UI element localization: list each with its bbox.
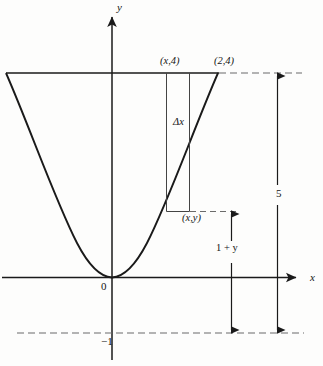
point-label-xy: (x,y) xyxy=(182,213,201,224)
delta-x-label: Δx xyxy=(171,117,186,128)
origin-label: 0 xyxy=(101,281,107,292)
negative-one-label: −1 xyxy=(101,336,113,347)
one-plus-y-label: 1 + y xyxy=(214,243,240,254)
point-label-24: (2,4) xyxy=(214,56,234,67)
axes-group xyxy=(2,17,296,360)
x-axis-label: x xyxy=(310,272,315,283)
point-label-x4: (x,4) xyxy=(160,56,180,67)
parabola-figure: x y 0 −1 (x,4) (2,4) (x,y) Δx 1 + y 5 xyxy=(0,0,323,366)
five-label: 5 xyxy=(274,188,284,199)
y-axis-label: y xyxy=(117,2,122,13)
